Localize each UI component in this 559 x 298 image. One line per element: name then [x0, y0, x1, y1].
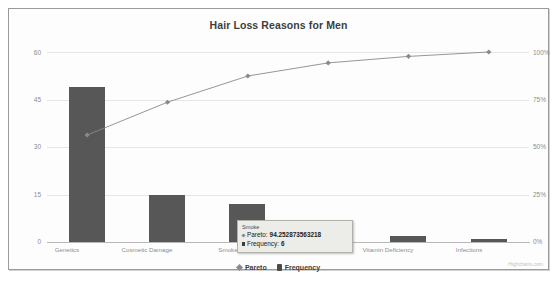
tooltip-header: Smoke: [242, 224, 348, 230]
chart-legend: Pareto Frequency: [9, 264, 548, 271]
y-axis-left-tick-15: 15: [15, 191, 41, 198]
legend-label-pareto: Pareto: [245, 264, 267, 271]
y-axis-right-tick-50: 50%: [533, 143, 559, 150]
pareto-point-marker[interactable]: [165, 100, 170, 105]
legend-label-frequency: Frequency: [285, 264, 320, 271]
tooltip-label-pareto: Pareto:: [247, 231, 268, 240]
tooltip-label-frequency: Frequency:: [247, 240, 279, 249]
pareto-point-marker[interactable]: [486, 49, 491, 54]
x-axis-label-infections: Infections: [429, 246, 509, 253]
chart-container: Hair Loss Reasons for Men 60 45 30 15 0 …: [8, 8, 549, 270]
x-axis-label-cosmetic-damage: Cosmetic Damage: [107, 246, 187, 253]
pareto-line-series[interactable]: [47, 52, 529, 242]
y-axis-left-tick-45: 45: [15, 96, 41, 103]
pareto-point-marker[interactable]: [245, 73, 250, 78]
legend-item-pareto[interactable]: Pareto: [237, 264, 267, 271]
x-axis-label-genetics: Genetics: [27, 246, 107, 253]
tooltip-row-pareto: Pareto: 94.252873563218: [242, 231, 348, 240]
y-axis-left-tick-30: 30: [15, 143, 41, 150]
pareto-line-path: [87, 52, 489, 135]
pareto-point-marker[interactable]: [406, 54, 411, 59]
chart-tooltip: Smoke Pareto: 94.252873563218 Frequency:…: [237, 220, 353, 253]
y-axis-right-tick-25: 25%: [533, 191, 559, 198]
x-axis-label-vitamin-deficiency: Vitamin Deficiency: [348, 246, 428, 253]
highcharts-credit-link[interactable]: Highcharts.com: [508, 261, 543, 267]
tooltip-value-pareto: 94.252873563218: [270, 231, 322, 240]
pareto-point-marker[interactable]: [85, 132, 90, 137]
chart-title: Hair Loss Reasons for Men: [9, 19, 548, 31]
y-axis-right-tick-100: 100%: [533, 49, 559, 56]
y-axis-right-tick-75: 75%: [533, 96, 559, 103]
pareto-point-marker[interactable]: [326, 60, 331, 65]
y-axis-right-tick-0: 0%: [533, 238, 559, 245]
y-axis-left-tick-0: 0: [15, 238, 41, 245]
legend-item-frequency[interactable]: Frequency: [277, 264, 320, 271]
square-marker-icon: [277, 264, 282, 271]
tooltip-value-frequency: 6: [281, 240, 285, 249]
diamond-marker-icon: [236, 264, 243, 271]
frequency-marker-icon: [242, 242, 245, 246]
pareto-marker-icon: [241, 233, 245, 237]
plot-area: [47, 52, 529, 242]
tooltip-row-frequency: Frequency: 6: [242, 240, 348, 249]
y-axis-left-tick-60: 60: [15, 49, 41, 56]
pareto-point-markers[interactable]: [85, 49, 492, 137]
